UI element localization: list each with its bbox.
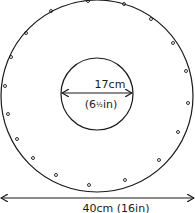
inner-circle <box>61 58 133 130</box>
hole-dot <box>150 18 153 21</box>
hole-dot <box>4 85 7 88</box>
hole-dot <box>88 184 91 187</box>
hole-dot <box>10 56 13 59</box>
inner-diameter-in: (6½in) <box>85 98 117 111</box>
hole-dot <box>7 113 10 116</box>
hole-dot <box>55 174 58 177</box>
hole-dot <box>177 131 180 134</box>
outer-diameter-label: 40cm (16in) <box>83 202 150 213</box>
hole-dot <box>32 157 35 160</box>
hole-dot <box>187 102 190 105</box>
outer-circle <box>1 0 193 192</box>
pattern-diagram: 17cm (6½in) 40cm (16in) <box>0 0 195 213</box>
inner-diameter-cm: 17cm <box>95 78 126 91</box>
hole-dot <box>185 70 188 73</box>
hole-dot <box>124 179 127 182</box>
hole-dot <box>172 42 175 45</box>
hole-dot <box>158 159 161 162</box>
hole-dot <box>16 138 19 141</box>
